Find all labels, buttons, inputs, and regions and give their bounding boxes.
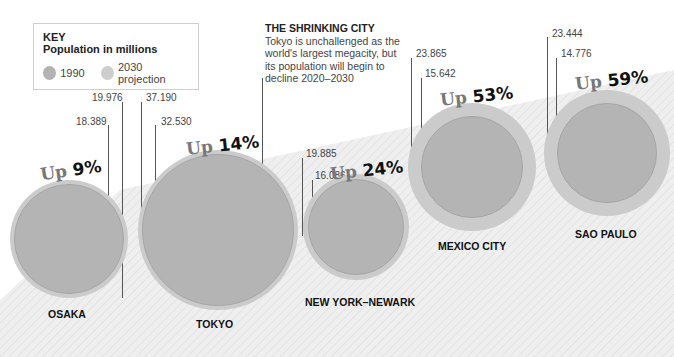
newyork-2030-value: 19.885 — [306, 148, 337, 159]
legend-2030: 2030 projection — [118, 61, 189, 85]
key-title: KEY — [43, 31, 189, 43]
osaka-1990-circle — [14, 184, 124, 294]
legend-key: KEY Population in millions 1990 2030 pro… — [33, 23, 199, 90]
mexico-2030-value: 23.865 — [416, 48, 447, 59]
legend-1990: 1990 — [60, 67, 84, 79]
osaka-1990-value: 18.389 — [76, 116, 107, 127]
saopaulo-2030-value: 23.444 — [552, 28, 583, 39]
tokyo-2030-value: 37.190 — [146, 92, 177, 103]
mexico-1990-value: 15.642 — [425, 68, 456, 79]
key-subtitle: Population in millions — [43, 43, 189, 56]
newyork-label: NEW YORK–NEWARK — [305, 296, 415, 308]
swatch-1990-icon — [43, 66, 56, 80]
mexico-label: MEXICO CITY — [438, 240, 506, 252]
note-leader-line — [262, 78, 263, 171]
osaka-2030-line — [122, 102, 123, 298]
osaka-1990-line — [108, 125, 109, 203]
tokyo-2030-line — [141, 102, 142, 217]
mexico-1990-circle — [421, 116, 523, 218]
osaka-label: OSAKA — [48, 308, 86, 320]
annotation-note: THE SHRINKING CITY Tokyo is unchallenged… — [265, 22, 400, 85]
tokyo-label: TOKYO — [196, 318, 233, 330]
note-heading: THE SHRINKING CITY — [265, 22, 400, 35]
saopaulo-1990-circle — [557, 103, 657, 203]
tokyo-1990-circle — [142, 154, 294, 306]
saopaulo-label: SAO PAULO — [575, 228, 637, 240]
saopaulo-1990-value: 14.776 — [561, 48, 592, 59]
swatch-2030-icon — [101, 66, 114, 80]
tokyo-1990-value: 32.530 — [161, 116, 192, 127]
note-body: Tokyo is unchallenged as the world's lar… — [265, 35, 400, 85]
newyork-1990-circle — [308, 179, 404, 275]
osaka-2030-value: 19.976 — [92, 92, 123, 103]
